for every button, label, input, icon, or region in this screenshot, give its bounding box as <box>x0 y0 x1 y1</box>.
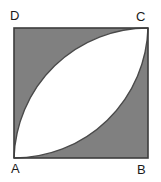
vertex-label-C: C <box>136 10 145 23</box>
vertex-label-B: B <box>137 163 146 176</box>
figure-canvas <box>0 0 161 182</box>
vertex-label-A: A <box>11 162 20 175</box>
geometry-figure: D C A B <box>0 0 161 182</box>
vertex-label-D: D <box>10 9 19 22</box>
